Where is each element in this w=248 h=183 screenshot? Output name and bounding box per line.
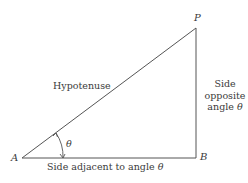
adjacent-side-label: Side adjacent to angle θ — [47, 162, 163, 172]
theta-angle-label: θ — [66, 139, 72, 149]
opposite-line-3: angle θ — [203, 101, 247, 113]
adjacent-theta-symbol: θ — [158, 161, 164, 172]
opposite-line-2: opposite — [203, 90, 247, 102]
opposite-line-1: Side — [203, 78, 247, 90]
vertex-label-a: A — [11, 153, 18, 163]
opposite-angle-text: angle — [207, 101, 234, 112]
angle-arrowhead-bottom-icon — [60, 154, 65, 158]
opposite-side-label: Side opposite angle θ — [203, 78, 247, 113]
hypotenuse-label: Hypotenuse — [53, 81, 111, 91]
vertex-label-b: B — [200, 152, 207, 162]
adjacent-side-text: Side adjacent to angle — [47, 161, 155, 172]
hypotenuse-line — [22, 28, 196, 158]
vertex-label-p: P — [194, 13, 201, 23]
opposite-theta-symbol: θ — [237, 101, 243, 112]
